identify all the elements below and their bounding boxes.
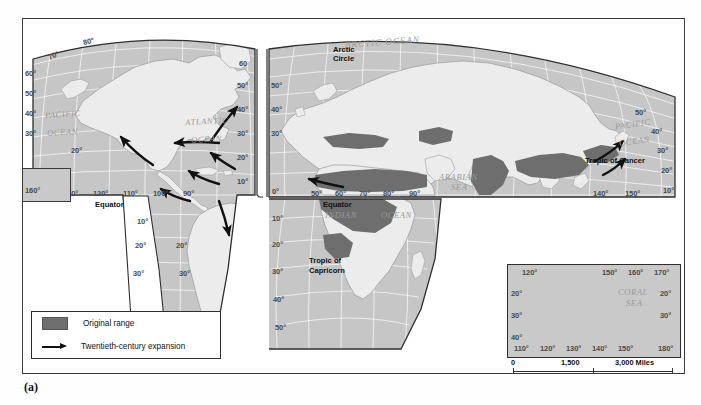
graticule-label-inset-160: 160° (25, 186, 40, 195)
inset-lon-130-bottom: 130° (566, 344, 581, 353)
inset-lon-140-bottom: 140° (592, 344, 607, 353)
inset-160-box: 160° (22, 168, 71, 202)
eastern-hemisphere-north (263, 19, 684, 219)
figure-panel-label: (a) (24, 380, 38, 395)
map-legend: Original range Twentieth-century expansi… (31, 311, 221, 359)
inset-lat-40-left: 40° (511, 333, 522, 342)
scale-miles-max: 3,000 Miles (615, 358, 654, 367)
australia-inset: 120° 150° 160° 170° 20° 30° 40° 20° 30° … (507, 264, 681, 358)
eastern-hemisphere-south (263, 197, 523, 373)
inset-lon-150-top: 150° (602, 268, 617, 277)
ocean-label-coral-sea-2: SEA (626, 298, 642, 308)
legend-row-expansion: Twentieth-century expansion (32, 335, 220, 358)
inset-lon-150-bottom: 150° (618, 344, 633, 353)
inset-lat-20-left: 20° (511, 289, 522, 298)
scale-miles-numbers: 0 1,500 3,000 Miles (507, 358, 679, 368)
scale-bar-block: 0 1,500 3,000 Miles 0 1,500 3,000 Kilome… (507, 358, 679, 374)
inset-lon-180-bottom: 180° (658, 344, 673, 353)
inset-lon-160-top: 160° (628, 268, 643, 277)
inset-lat-30-right: 30° (660, 311, 671, 320)
figure-panel: 80° 70° 60° 50° 40° 30° 10° 0° 160° 20° … (0, 0, 701, 405)
inset-lat-20-right: 20° (660, 289, 671, 298)
legend-row-original-range: Original range (32, 312, 220, 335)
scale-ruler (513, 368, 673, 374)
central-seam (257, 49, 267, 197)
inset-lat-30-left: 30° (511, 311, 522, 320)
ocean-label-coral-sea-1: CORAL (618, 287, 648, 297)
map-frame: 80° 70° 60° 50° 40° 30° 10° 0° 160° 20° … (22, 18, 685, 374)
scale-miles-mid: 1,500 (561, 358, 580, 367)
scale-miles-zero: 0 (511, 358, 515, 367)
inset-lon-120-bottom: 120° (540, 344, 555, 353)
inset-lon-170-top: 170° (654, 268, 669, 277)
inset-lon-120-top: 120° (522, 268, 537, 277)
expansion-arrow-icon (42, 342, 68, 351)
original-range-swatch (42, 317, 68, 330)
inset-lon-110-bottom: 110° (514, 344, 529, 353)
legend-label-original-range: Original range (83, 319, 134, 328)
legend-label-expansion: Twentieth-century expansion (81, 342, 185, 351)
